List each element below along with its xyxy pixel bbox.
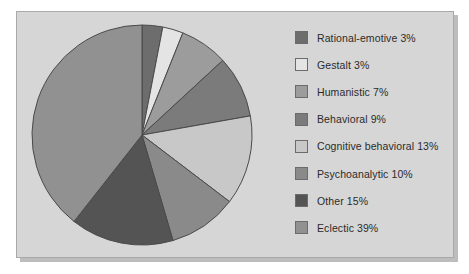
legend-row: Psychoanalytic 10% [295, 160, 451, 187]
chart-legend: Rational-emotive 3%Gestalt 3%Humanistic … [295, 24, 451, 242]
legend-swatch-humanistic [295, 85, 308, 98]
figure-container: Rational-emotive 3%Gestalt 3%Humanistic … [0, 0, 469, 274]
legend-swatch-gestalt [295, 58, 308, 71]
pie-chart [29, 22, 255, 248]
legend-row: Other 15% [295, 187, 451, 214]
legend-row: Behavioral 9% [295, 106, 451, 133]
legend-label: Other 15% [317, 195, 368, 207]
legend-swatch-behavioral [295, 113, 308, 126]
legend-label: Cognitive behavioral 13% [317, 140, 438, 152]
legend-swatch-eclectic [295, 221, 308, 234]
legend-row: Gestalt 3% [295, 51, 451, 78]
legend-label: Gestalt 3% [317, 59, 369, 71]
legend-swatch-psychoanalytic [295, 167, 308, 180]
legend-row: Rational-emotive 3% [295, 24, 451, 51]
legend-row: Cognitive behavioral 13% [295, 133, 451, 160]
legend-row: Humanistic 7% [295, 78, 451, 105]
chart-area: Rational-emotive 3%Gestalt 3%Humanistic … [17, 12, 453, 257]
legend-swatch-cognitive-behavioral [295, 140, 308, 153]
legend-label: Eclectic 39% [317, 222, 378, 234]
chart-panel: Rational-emotive 3%Gestalt 3%Humanistic … [16, 11, 454, 258]
legend-row: Eclectic 39% [295, 214, 451, 241]
legend-label: Behavioral 9% [317, 113, 386, 125]
legend-label: Rational-emotive 3% [317, 32, 416, 44]
legend-swatch-rational-emotive [295, 31, 308, 44]
legend-swatch-other [295, 194, 308, 207]
legend-label: Humanistic 7% [317, 86, 388, 98]
legend-label: Psychoanalytic 10% [317, 168, 413, 180]
pie-slice-group [32, 25, 252, 245]
